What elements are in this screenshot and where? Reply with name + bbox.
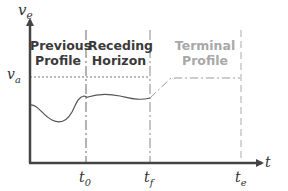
te-label: te [235,169,246,188]
y-axis-label: ve [18,1,33,21]
region-terminal-profile: TerminalProfile [170,38,240,68]
va-label: va [7,66,21,85]
tf-label: tf [144,169,153,188]
t0-label: t0 [79,169,91,188]
x-axis-label: t [265,154,271,170]
terminal-profile-line [150,78,240,98]
velocity-profile-diagram [0,0,288,191]
velocity-curve [30,94,150,121]
region-previous-profile: PreviousProfile [30,38,86,68]
region-receding-horizon: RecedingHorizon [88,38,150,68]
